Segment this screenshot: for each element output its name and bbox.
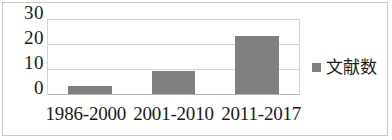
plot-area <box>47 19 300 95</box>
bar-chart-figure: 0 10 20 30 1986-2000 2001-2010 2011-2017 <box>0 0 392 140</box>
bar-slot-1986-2000 <box>48 19 132 94</box>
y-tick-label-3: 30 <box>6 3 44 22</box>
bar-slot-2001-2010 <box>132 19 216 94</box>
x-axis-line <box>48 94 299 95</box>
legend-label: 文献数 <box>326 58 377 77</box>
bar-2011-2017[interactable] <box>235 36 279 94</box>
legend-swatch-icon <box>312 63 321 72</box>
bar-2001-2010[interactable] <box>152 71 196 94</box>
x-axis: 1986-2000 2001-2010 2011-2017 <box>42 103 305 125</box>
bars-group <box>48 19 299 94</box>
y-tick-label-1: 10 <box>6 53 44 72</box>
x-category-label-3: 2011-2017 <box>217 103 305 125</box>
y-tick-label-0: 0 <box>6 78 44 97</box>
y-tick-label-2: 20 <box>6 28 44 47</box>
legend: 文献数 <box>312 58 377 77</box>
x-category-label-1: 1986-2000 <box>42 103 130 125</box>
bar-1986-2000[interactable] <box>68 86 112 94</box>
x-category-label-2: 2001-2010 <box>130 103 218 125</box>
bar-slot-2011-2017 <box>215 19 299 94</box>
y-axis: 0 10 20 30 <box>6 12 44 100</box>
